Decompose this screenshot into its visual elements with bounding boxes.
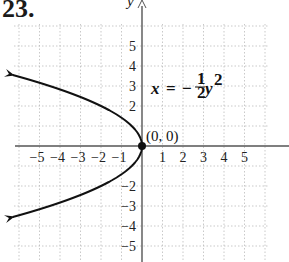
y-tick-label: 4	[129, 59, 136, 74]
vertex-point	[138, 142, 146, 150]
vertex-label: (0, 0)	[146, 128, 179, 145]
y-tick-label: −3	[121, 199, 136, 214]
x-tick-label: −4	[50, 150, 65, 165]
x-tick-label: −2	[91, 150, 106, 165]
y-tick-label: −5	[121, 239, 136, 254]
svg-text:=: =	[166, 79, 176, 98]
parabola-chart: y −5−4−3−2−112345 5432−2−3−4−5 (0, 0) x …	[0, 0, 289, 262]
x-tick-label: 3	[200, 150, 207, 165]
x-tick-label: −1	[112, 150, 127, 165]
y-tick-label: −4	[121, 219, 136, 234]
x-tick-label: 1	[159, 150, 166, 165]
y-tick-label: −2	[121, 179, 136, 194]
svg-text:2: 2	[214, 70, 223, 89]
y-tick-label: 3	[129, 79, 136, 94]
x-tick-label: 2	[180, 150, 187, 165]
x-tick-label: −5	[30, 150, 45, 165]
svg-text:y: y	[203, 79, 213, 98]
y-axis-label: y	[125, 0, 134, 9]
svg-text:x: x	[150, 79, 160, 98]
svg-text:−: −	[182, 79, 192, 98]
y-tick-label: 2	[129, 99, 136, 114]
x-tick-label: −3	[71, 150, 86, 165]
x-tick-label: 5	[241, 150, 248, 165]
y-tick-label: 5	[129, 39, 136, 54]
equation-label: x = − 1 2 y 2	[150, 69, 223, 102]
x-tick-label: 4	[221, 150, 228, 165]
